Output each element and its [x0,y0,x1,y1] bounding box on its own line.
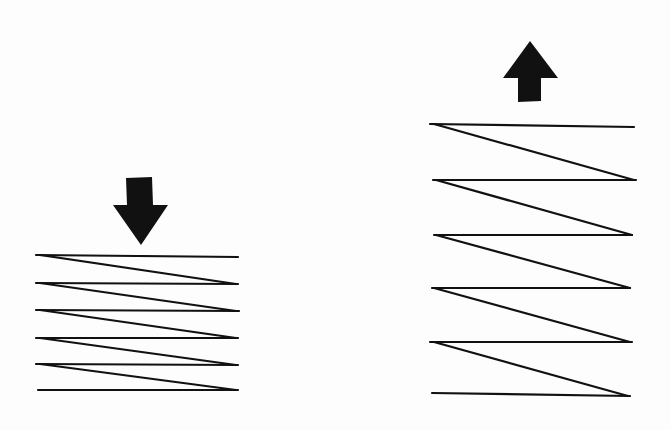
extended-spring [430,124,636,396]
spring-diagram [0,0,671,430]
compressed-spring [36,255,239,390]
up-arrow-icon [503,41,558,102]
down-arrow-icon [113,177,168,245]
